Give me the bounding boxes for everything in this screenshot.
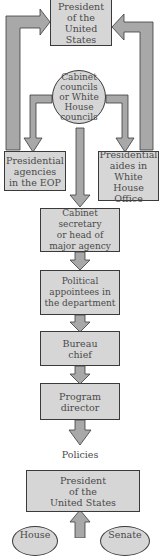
node-label: House [20,529,51,540]
node-policies: Policies [40,449,120,460]
arrow-secretary-to-appointees [70,252,90,270]
node-cabinet-councils: Cabinet councils or White House councils [52,70,106,124]
node-label: Presidential aides in White House Office [99,149,158,204]
arrow-appointees-to-bureau [70,315,90,332]
arrow-councils-to-agencies [24,95,52,152]
arrow-aides-to-president [112,14,153,150]
arrow-director-to-policies [69,420,91,445]
node-label: Political appointees in the department [44,276,115,309]
node-label: Program director [59,391,101,413]
arrow-congress-to-president [70,510,90,538]
node-cabinet-secretary: Cabinet secretary or head of major agenc… [40,208,120,252]
node-label: Bureau chief [62,338,97,360]
node-label: Presidential agencies in the EOP [6,155,64,188]
node-label: Cabinet secretary or head of major agenc… [41,208,119,252]
arrow-bureau-to-director [70,366,90,384]
arrow-councils-to-aides [106,95,134,152]
node-bureau-chief: Bureau chief [40,331,120,366]
node-president-bottom: President of the United States [26,470,140,512]
node-presidential-agencies: Presidential agencies in the EOP [4,151,66,191]
node-political-appointees: Political appointees in the department [40,270,120,315]
arrow-agencies-to-president [6,9,50,150]
node-label: President of the United States [58,1,104,45]
node-president-top: President of the United States [50,0,112,46]
node-senate: Senate [100,526,150,556]
node-label: Senate [108,529,141,540]
node-label: Cabinet councils or White House councils [59,72,98,122]
node-house: House [12,526,58,556]
node-label: President of the United States [50,475,116,508]
node-presidential-aides: Presidential aides in White House Office [98,151,159,201]
node-program-director: Program director [40,383,120,420]
arrow-councils-to-secretary [70,128,90,207]
